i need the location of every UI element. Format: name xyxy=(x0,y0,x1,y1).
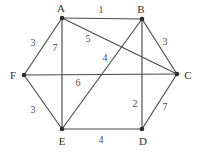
node-dot-a xyxy=(60,16,65,21)
edge-a-b xyxy=(62,18,142,19)
node-dot-f xyxy=(22,73,27,78)
node-dot-c xyxy=(175,72,180,77)
edge-a-f xyxy=(24,18,62,75)
graph-canvas xyxy=(0,0,199,155)
node-dot-e xyxy=(60,127,65,132)
node-dot-b xyxy=(140,17,145,22)
edges-group xyxy=(24,18,177,129)
edge-f-e xyxy=(24,75,62,129)
nodes-group xyxy=(22,16,180,132)
weighted-graph-figure: 13753426347ABCDEF xyxy=(0,0,199,155)
edge-d-c xyxy=(142,74,177,129)
node-dot-d xyxy=(140,127,145,132)
edge-f-c xyxy=(24,74,177,75)
